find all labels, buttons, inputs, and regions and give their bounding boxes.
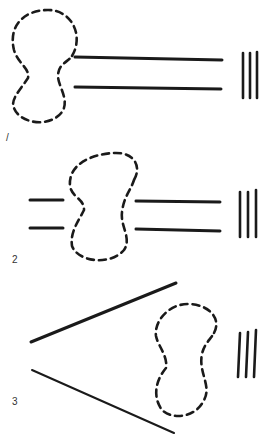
bar-2: [246, 332, 248, 377]
dashed-blob: [156, 304, 216, 416]
right-line-bottom: [136, 229, 220, 231]
dashed-blob: [70, 153, 137, 260]
bar-1: [238, 333, 240, 377]
panel-2: 2: [12, 153, 256, 265]
right-line-top: [136, 201, 220, 202]
converging-line-top: [31, 283, 176, 342]
converging-line-bottom: [32, 370, 174, 433]
bar-3: [254, 330, 256, 377]
panel-label-2: 2: [12, 254, 18, 265]
panel-label-3: 3: [12, 396, 18, 407]
parallel-line-top: [75, 57, 222, 60]
panel-3: 3: [12, 283, 256, 433]
panel-1: /: [6, 10, 257, 143]
parallel-line-bottom: [75, 87, 221, 89]
panel-label-1: /: [6, 132, 9, 143]
dashed-blob: [13, 10, 77, 122]
diagram-canvas: / 2 3: [0, 0, 266, 437]
